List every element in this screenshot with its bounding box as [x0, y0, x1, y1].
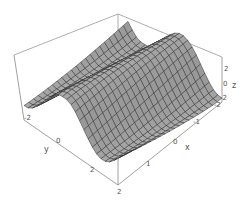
- y-tick: 0: [56, 137, 60, 145]
- y-axis-label: y: [44, 145, 49, 154]
- z-tick: 2: [224, 65, 228, 73]
- x-tick: -2: [214, 101, 221, 109]
- y-tick: -2: [24, 114, 31, 122]
- x-tick: 0: [173, 138, 177, 146]
- surface-plot: -2 0 2 y 2 1 0 -1 -2 x 2 0 -2 z: [0, 0, 248, 205]
- z-tick: 0: [223, 80, 227, 88]
- x-tick: 1: [146, 160, 150, 168]
- x-axis-label: x: [185, 143, 190, 152]
- y-tick: 2: [90, 166, 94, 174]
- z-axis-label: z: [232, 81, 236, 90]
- z-tick: -2: [220, 94, 227, 102]
- x-tick: -1: [193, 118, 200, 126]
- z-axis-ticks: 2 0 -2 z: [220, 65, 236, 102]
- x-tick: 2: [117, 188, 121, 196]
